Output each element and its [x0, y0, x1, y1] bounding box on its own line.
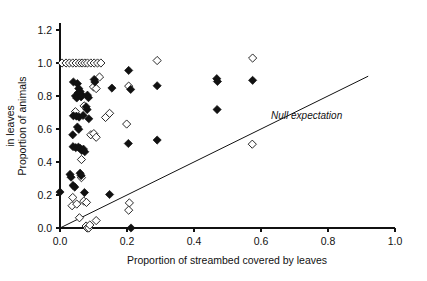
x-tick-label-0.8: 0.8 — [321, 235, 336, 247]
y-tick-label-0.0: 0.0 — [37, 222, 52, 234]
plot-canvas: 0.00.20.40.60.81.01.2 0.00.20.40.60.81.0… — [0, 0, 427, 281]
data-point-open — [248, 140, 256, 148]
x-tick-label-1.0: 1.0 — [388, 235, 403, 247]
data-point-open — [249, 54, 257, 62]
y-axis-tick-labels: 0.00.20.40.60.81.01.2 — [37, 24, 52, 234]
reference-line-group — [60, 76, 368, 228]
y-tick-label-0.8: 0.8 — [37, 90, 52, 102]
x-tick-label-0.4: 0.4 — [187, 235, 202, 247]
data-point-filled — [105, 190, 113, 198]
data-point-open — [69, 193, 77, 201]
x-tick-label-0.0: 0.0 — [53, 235, 68, 247]
data-point-open — [75, 214, 83, 222]
data-point-filled — [80, 188, 88, 196]
y-tick-label-0.6: 0.6 — [37, 123, 52, 135]
data-point-filled — [127, 224, 135, 232]
data-point-open — [125, 199, 133, 207]
data-point-filled — [213, 105, 221, 113]
null-expectation-line — [60, 76, 368, 228]
scatter-plot-figure: 0.00.20.40.60.81.01.2 0.00.20.40.60.81.0… — [0, 0, 427, 281]
data-point-filled — [153, 82, 161, 90]
x-tick-label-0.6: 0.6 — [254, 235, 269, 247]
x-axis-tick-labels: 0.00.20.40.60.81.0 — [53, 235, 403, 247]
data-point-open — [125, 206, 133, 214]
filled-diamond-points — [56, 66, 257, 232]
x-tick-label-0.2: 0.2 — [120, 235, 135, 247]
y-tick-label-0.2: 0.2 — [37, 189, 52, 201]
null-expectation-label: Null expectation — [271, 110, 343, 121]
x-axis-ticks — [60, 228, 395, 232]
y-axis-title-line2: Proportion of animals — [16, 76, 28, 175]
data-point-open — [123, 120, 131, 128]
data-point-filled — [108, 84, 116, 92]
data-point-filled — [125, 66, 133, 74]
y-axis-title-line1: in leaves — [4, 105, 16, 146]
data-point-open — [153, 56, 161, 64]
y-axis-ticks — [56, 30, 60, 228]
data-point-open — [77, 155, 85, 163]
data-point-filled — [69, 131, 77, 139]
data-point-filled — [124, 139, 132, 147]
data-point-filled — [153, 136, 161, 144]
y-tick-label-1.2: 1.2 — [37, 24, 52, 36]
data-point-filled — [249, 76, 257, 84]
data-point-open — [92, 216, 100, 224]
y-tick-label-1.0: 1.0 — [37, 57, 52, 69]
x-axis-title: Proportion of streambed covered by leave… — [127, 254, 327, 266]
y-tick-label-0.4: 0.4 — [37, 156, 52, 168]
